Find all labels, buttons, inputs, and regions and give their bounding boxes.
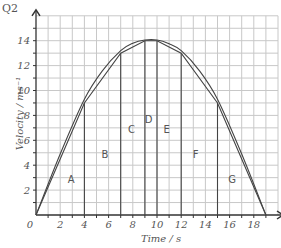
region-label-b: B	[102, 149, 109, 160]
region-label-c: C	[128, 124, 135, 135]
y-tick-label: 4	[23, 160, 30, 171]
x-tick-label: 14	[199, 219, 212, 230]
x-tick-label: 16	[223, 219, 236, 230]
x-tick-label: 4	[80, 219, 87, 230]
x-tick-label: 2	[56, 219, 63, 230]
region-label-d: D	[145, 114, 153, 125]
region-label-g: G	[228, 174, 236, 185]
origin-label: 0	[27, 219, 34, 230]
region-label-e: E	[164, 124, 170, 135]
region-label-f: F	[193, 149, 199, 160]
velocity-time-chart: 2468101214161824681012140ABCDEFG	[0, 0, 281, 248]
x-tick-label: 6	[105, 219, 112, 230]
region-label-a: A	[68, 174, 75, 185]
x-tick-label: 12	[175, 219, 188, 230]
y-tick-label: 14	[17, 35, 30, 46]
y-tick-label: 6	[24, 135, 31, 146]
x-tick-label: 18	[247, 219, 260, 230]
y-tick-label: 8	[24, 110, 30, 121]
x-tick-label: 10	[151, 219, 164, 230]
y-axis-label: Velocity / ms⁻¹	[14, 69, 25, 159]
x-axis-label: Time / s	[141, 233, 181, 244]
x-tick-label: 8	[130, 219, 136, 230]
y-tick-label: 2	[23, 185, 30, 196]
